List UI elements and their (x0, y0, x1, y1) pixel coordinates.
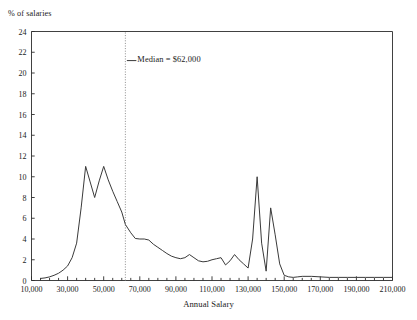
y-tick-label: 2 (8, 255, 27, 264)
x-axis-label: Annual Salary (0, 299, 417, 309)
series-line (41, 166, 393, 278)
plot-frame (32, 32, 393, 281)
x-tick-label: 70,000 (129, 285, 151, 294)
data-series-group (41, 166, 393, 278)
axes-group (32, 32, 393, 281)
x-tick-label: 30,000 (57, 285, 79, 294)
x-tick-label: 10,000 (21, 285, 43, 294)
y-tick-label: 4 (8, 235, 27, 244)
chart-figure: % of salaries Annual Salary 024681012141… (0, 0, 417, 320)
plot-canvas (0, 0, 417, 320)
x-tick-label: 50,000 (93, 285, 115, 294)
tick-marks-group (32, 32, 393, 281)
y-tick-label: 6 (8, 214, 27, 223)
y-tick-label: 8 (8, 193, 27, 202)
x-tick-label: 90,000 (165, 285, 187, 294)
y-tick-label: 12 (8, 152, 27, 161)
y-tick-label: 18 (8, 89, 27, 98)
median-annotation-label: Median = $62,000 (137, 55, 200, 64)
y-tick-label: 10 (8, 172, 27, 181)
y-tick-label: 20 (8, 69, 27, 78)
x-tick-label: 130,000 (235, 285, 261, 294)
y-tick-label: 24 (8, 27, 27, 36)
x-tick-label: 110,000 (199, 285, 225, 294)
y-axis-label: % of salaries (8, 9, 52, 18)
x-tick-label: 170,000 (307, 285, 333, 294)
x-tick-label: 150,000 (271, 285, 297, 294)
y-tick-label: 16 (8, 110, 27, 119)
y-tick-label: 22 (8, 48, 27, 57)
x-tick-label: 210,000 (380, 285, 406, 294)
x-tick-label: 190,000 (343, 285, 369, 294)
y-tick-label: 14 (8, 131, 27, 140)
